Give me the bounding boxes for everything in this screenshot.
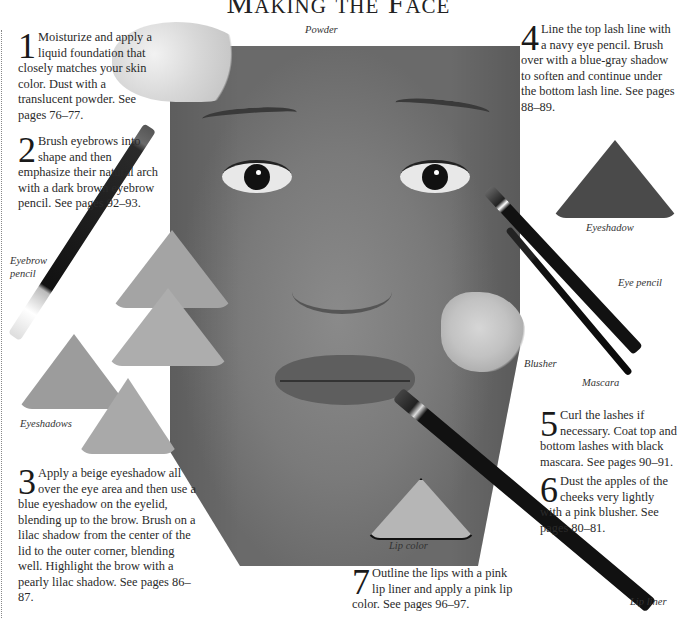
step-1-text: Moisturize and apply a liquid foundation… (18, 30, 152, 122)
step-2-text: Brush eyebrows into shape and then empha… (18, 134, 158, 210)
step-5-text: Curl the lashes if necessary. Coat top a… (540, 408, 677, 469)
right-eye (400, 160, 470, 193)
step-2-number: 2 (18, 135, 36, 165)
caption-lip-color: Lip color (389, 540, 428, 551)
page-margin-dotted-rule (1, 30, 2, 618)
caption-mascara: Mascara (582, 377, 619, 388)
caption-eye-pencil: Eye pencil (618, 277, 662, 288)
eyeshadow-pan-blue (18, 334, 130, 409)
caption-powder: Powder (305, 24, 338, 35)
step-6-number: 6 (540, 475, 558, 505)
step-2: 2 Brush eyebrows into shape and then emp… (18, 134, 158, 212)
step-7-text: Outline the lips with a pink lip liner a… (352, 566, 512, 611)
caption-eyebrow-pencil: Eyebrow pencil (10, 254, 70, 280)
left-eye (222, 160, 292, 193)
caption-eyeshadows: Eyeshadows (20, 418, 72, 429)
caption-blusher: Blusher (524, 358, 557, 369)
step-5: 5 Curl the lashes if necessary. Coat top… (540, 408, 677, 470)
step-3-number: 3 (18, 467, 36, 497)
step-3: 3 Apply a beige eyeshadow all over the e… (18, 466, 198, 606)
step-1: 1 Moisturize and apply a liquid foundati… (18, 30, 158, 123)
step-6-text: Dust the apples of the cheeks very light… (540, 474, 668, 535)
page-title: Making the Face (0, 0, 677, 20)
step-4: 4 Line the top lash line with a navy eye… (521, 22, 676, 115)
lip-line (280, 380, 410, 382)
caption-eyeshadow: Eyeshadow (586, 222, 634, 233)
step-1-number: 1 (18, 31, 36, 61)
step-7: 7 Outline the lips with a pink lip liner… (352, 566, 522, 613)
step-7-number: 7 (352, 567, 370, 597)
step-5-number: 5 (540, 409, 558, 439)
caption-lip-liner: Lip liner (630, 596, 666, 607)
mascara-image (505, 226, 632, 376)
step-3-text: Apply a beige eyeshadow all over the eye… (18, 466, 196, 604)
step-4-number: 4 (521, 23, 539, 53)
eyeshadow-pan-blue-gray (552, 140, 678, 218)
nose (292, 270, 392, 314)
step-6: 6 Dust the apples of the cheeks very lig… (540, 474, 677, 536)
step-4-text: Line the top lash line with a navy eye p… (521, 22, 674, 114)
